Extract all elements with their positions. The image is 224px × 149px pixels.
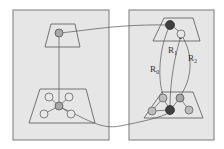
left-bottom-node: [40, 110, 48, 118]
right-top-light-node: [177, 30, 185, 38]
right-bottom-dark-node: [166, 106, 175, 115]
left-top-node: [55, 29, 63, 37]
left-bottom-node: [45, 93, 53, 101]
right-bottom-node: [159, 94, 167, 102]
left-bottom-node: [67, 110, 75, 118]
right-bottom-node: [185, 106, 193, 114]
left-bottom-center-node: [55, 102, 63, 110]
right-bottom-node: [148, 107, 156, 115]
diagram-canvas: R0 R1 R2: [0, 0, 224, 149]
left-bottom-node: [65, 93, 73, 101]
right-bottom-node: [176, 94, 184, 102]
right-top-dark-node: [166, 21, 175, 30]
